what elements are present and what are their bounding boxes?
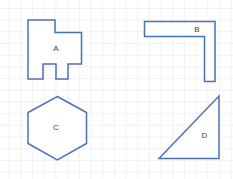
shape-d-polygon	[159, 96, 219, 159]
shapes-layer: A B C D	[0, 0, 233, 179]
shape-b-polygon	[145, 22, 216, 82]
shape-b-label: B	[194, 25, 199, 34]
shape-d-label: D	[202, 131, 208, 140]
shape-c-label: C	[53, 123, 59, 132]
shape-a-label: A	[53, 44, 59, 53]
grid-paper-canvas: A B C D	[0, 0, 233, 179]
